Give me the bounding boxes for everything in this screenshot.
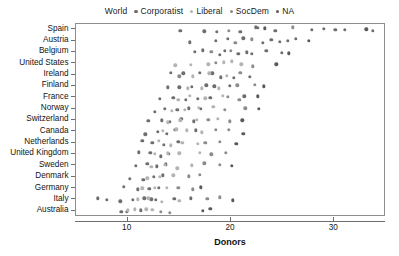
data-point: [187, 107, 190, 110]
legend-item-socdem[interactable]: SocDem: [230, 7, 269, 16]
data-point: [274, 29, 277, 32]
data-point: [188, 94, 191, 97]
data-point: [177, 186, 180, 189]
data-point: [207, 62, 210, 65]
data-point: [153, 152, 156, 155]
data-point: [280, 51, 283, 54]
data-point: [211, 72, 214, 75]
legend-dot-icon: [134, 10, 137, 13]
y-tick-netherlands: Netherlands: [24, 137, 75, 147]
data-point: [233, 41, 236, 44]
y-tick-norway: Norway: [41, 103, 75, 113]
data-point: [214, 39, 217, 42]
y-tick-united-states: United States: [19, 58, 75, 68]
data-point: [162, 143, 165, 146]
data-point: [142, 196, 145, 199]
data-point: [196, 142, 199, 145]
y-tick-label: Italy: [53, 195, 68, 203]
data-point: [178, 199, 181, 202]
data-point: [176, 167, 179, 170]
data-point: [307, 39, 310, 42]
data-point: [146, 177, 149, 180]
data-point: [201, 48, 204, 51]
y-tick-ireland: Ireland: [43, 69, 75, 79]
data-point: [240, 62, 243, 65]
data-point: [182, 72, 185, 75]
data-point: [196, 97, 199, 100]
y-tick-label: Australia: [37, 206, 69, 214]
data-point: [261, 41, 264, 44]
data-point: [204, 84, 207, 87]
data-point: [239, 30, 242, 33]
data-point: [150, 198, 153, 201]
y-tick-france: France: [43, 92, 75, 102]
data-point: [151, 208, 154, 211]
y-axis: SpainAustriaBelgiumUnited StatesIrelandF…: [0, 23, 75, 216]
data-point: [190, 164, 193, 167]
data-point: [141, 178, 144, 181]
data-point: [264, 49, 267, 52]
data-point: [193, 50, 196, 53]
data-point: [221, 94, 224, 97]
data-point: [217, 86, 220, 89]
scatter-plot-figure: WorldCorporatistLiberalSocDemNA SpainAus…: [0, 0, 399, 256]
data-point: [149, 151, 152, 154]
data-point: [198, 151, 201, 154]
data-point: [262, 85, 265, 88]
data-point: [158, 97, 161, 100]
data-point: [218, 53, 221, 56]
legend-dot-icon: [230, 10, 233, 13]
y-tick-label: United Kingdom: [10, 149, 68, 157]
y-tick-label: United States: [19, 59, 68, 67]
x-axis: Donors 102030: [75, 216, 385, 256]
data-point: [250, 52, 253, 55]
legend-title: World: [105, 7, 128, 16]
y-tick-label: Denmark: [35, 172, 68, 180]
data-point: [343, 28, 346, 31]
data-point: [184, 98, 187, 101]
data-point: [230, 164, 233, 167]
data-point: [126, 209, 129, 212]
data-point: [237, 52, 240, 55]
data-point: [140, 139, 143, 142]
data-point: [166, 121, 169, 124]
data-point: [227, 128, 230, 131]
data-point: [334, 28, 337, 31]
legend-item-liberal[interactable]: Liberal: [190, 7, 222, 16]
data-point: [148, 187, 151, 190]
data-point: [189, 197, 192, 200]
data-point: [153, 110, 156, 113]
data-point: [134, 164, 137, 167]
legend-dot-icon: [190, 10, 193, 13]
data-point: [215, 30, 218, 33]
data-point: [223, 108, 226, 111]
data-point: [200, 87, 203, 90]
data-point: [150, 165, 153, 168]
data-point: [242, 132, 245, 135]
legend-item-na[interactable]: NA: [276, 7, 294, 16]
data-point: [203, 97, 206, 100]
data-point: [155, 165, 158, 168]
y-tick-label: Norway: [41, 104, 69, 112]
x-tick-label: 30: [329, 224, 338, 232]
y-tick-label: Ireland: [43, 70, 68, 78]
data-point: [209, 207, 212, 210]
data-point: [159, 155, 162, 158]
data-point: [153, 186, 156, 189]
data-point: [218, 140, 221, 143]
data-point: [294, 37, 297, 40]
data-point: [165, 186, 168, 189]
data-point: [227, 29, 230, 32]
legend-item-corporatist[interactable]: Corporatist: [134, 7, 183, 16]
y-tick-label: Belgium: [39, 47, 69, 55]
data-points-layer: [76, 24, 384, 215]
y-tick-finland: Finland: [42, 80, 75, 90]
data-point: [198, 173, 201, 176]
data-point: [226, 37, 229, 40]
data-point: [223, 49, 226, 52]
chart-legend: WorldCorporatistLiberalSocDemNA: [0, 7, 399, 16]
data-point: [128, 177, 131, 180]
x-tick-mark: [127, 217, 128, 222]
data-point: [224, 151, 227, 154]
data-point: [257, 107, 260, 110]
